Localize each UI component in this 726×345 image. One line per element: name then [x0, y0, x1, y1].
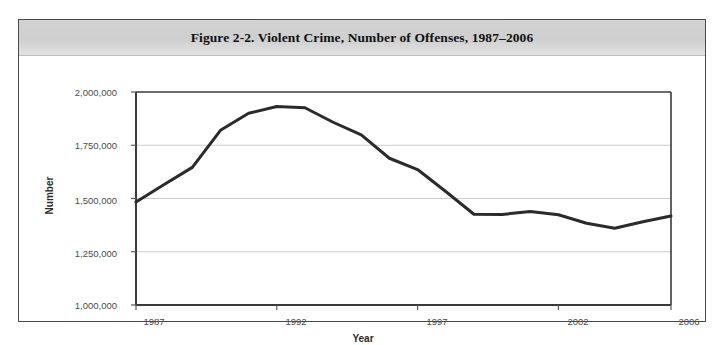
axis-ticks [131, 92, 671, 310]
chart-svg [19, 56, 705, 321]
figure-title: Figure 2-2. Violent Crime, Number of Off… [191, 30, 534, 46]
x-axis-title: Year [19, 333, 707, 344]
gridlines [136, 145, 671, 252]
figure-title-bar: Figure 2-2. Violent Crime, Number of Off… [19, 20, 705, 56]
figure-container: Figure 2-2. Violent Crime, Number of Off… [18, 19, 706, 322]
chart-plot-area: Number 2,000,000 1,750,000 1,500,000 1,2… [19, 56, 705, 321]
data-series-line [136, 106, 671, 228]
